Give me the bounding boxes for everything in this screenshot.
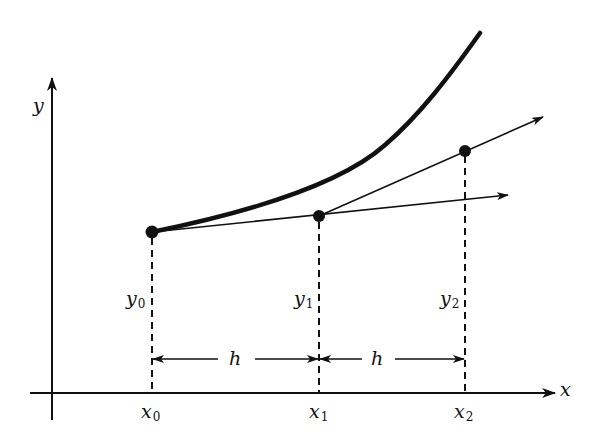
x2-label: x2 <box>454 402 473 423</box>
x1-label: x1 <box>309 402 328 423</box>
y1-label: y1 <box>294 289 313 310</box>
y-axis-label: y <box>33 96 44 115</box>
x0-label: x0 <box>141 402 160 423</box>
y0-label: y0 <box>126 289 145 310</box>
point-2 <box>459 145 471 157</box>
solution-curve <box>152 33 480 232</box>
interval-h-label-1: h <box>371 349 383 368</box>
point-0 <box>146 226 159 239</box>
y2-label: y2 <box>440 289 459 310</box>
tangent-line-0 <box>152 195 508 232</box>
x-axis-label: x <box>560 380 571 399</box>
euler-method-diagram <box>0 0 594 443</box>
interval-h-label-0: h <box>229 349 241 368</box>
point-1 <box>313 210 325 222</box>
